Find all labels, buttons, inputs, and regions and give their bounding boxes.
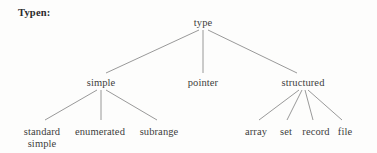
tree-node-label: subrange — [140, 126, 179, 137]
tree-edge-type-to-simple — [106, 30, 199, 73]
tree-node-label: type — [194, 17, 212, 28]
tree-node-label: record — [302, 126, 329, 137]
tree-node-label: enumerated — [75, 126, 125, 137]
tree-node-structured: structured — [282, 77, 325, 89]
tree-edge-structured-to-file — [308, 90, 342, 120]
tree-node-label: pointer — [188, 77, 218, 88]
tree-edge-type-to-structured — [208, 30, 297, 73]
tree-node-label: set — [280, 126, 292, 137]
tree-node-pointer: pointer — [188, 77, 218, 89]
type-hierarchy-diagram: Typen: typesimplepointerstructuredstanda… — [0, 0, 377, 153]
tree-node-label: structured — [282, 77, 325, 88]
tree-node-array: array — [245, 126, 267, 138]
tree-node-label: array — [245, 126, 267, 137]
tree-node-label: file — [338, 126, 352, 137]
tree-node-simple: simple — [87, 77, 116, 89]
tree-edge-structured-to-set — [287, 90, 302, 120]
tree-node-subrange: subrange — [140, 126, 179, 138]
tree-edge-structured-to-array — [259, 90, 299, 120]
tree-node-label: standard — [24, 126, 60, 137]
tree-node-label-line2: simple — [24, 138, 60, 150]
tree-node-file: file — [338, 126, 352, 138]
tree-edge-simple-to-standard — [45, 90, 97, 120]
page-title: Typen: — [18, 7, 51, 18]
tree-node-label: simple — [87, 77, 116, 88]
tree-node-record: record — [302, 126, 329, 138]
tree-node-standard: standardsimple — [24, 126, 60, 149]
tree-node-type: type — [194, 17, 212, 29]
tree-node-set: set — [280, 126, 292, 138]
tree-edge-structured-to-record — [305, 90, 313, 120]
tree-node-enumerated: enumerated — [75, 126, 125, 138]
tree-edge-simple-to-subrange — [106, 90, 157, 120]
